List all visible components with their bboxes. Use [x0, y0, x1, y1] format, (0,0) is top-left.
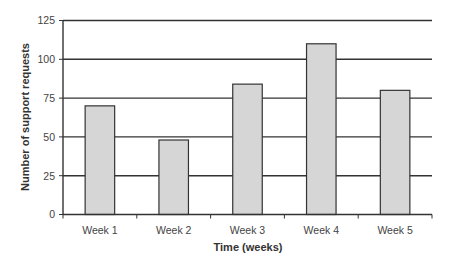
- x-tick-label: Week 2: [156, 224, 192, 236]
- bar-week-4: [307, 44, 337, 215]
- x-tick-label: Week 4: [304, 224, 340, 236]
- bar-week-3: [233, 84, 263, 214]
- x-tick-label: Week 1: [82, 224, 118, 236]
- bars: [85, 44, 410, 215]
- y-tick-label: 50: [43, 131, 55, 143]
- y-tick-labels: 0255075100125: [37, 14, 55, 220]
- y-tick-label: 0: [49, 208, 55, 220]
- x-tick-label: Week 3: [230, 224, 266, 236]
- bar-week-5: [380, 90, 410, 214]
- bar-week-1: [85, 106, 115, 215]
- x-axis-title: Time (weeks): [214, 241, 283, 253]
- y-tick-label: 100: [37, 53, 55, 65]
- y-tick-label: 25: [43, 170, 55, 182]
- y-axis-title: Number of support requests: [19, 43, 31, 191]
- y-tick-label: 125: [37, 14, 55, 26]
- bar-week-2: [159, 140, 189, 214]
- x-tick-labels: Week 1Week 2Week 3Week 4Week 5: [82, 224, 413, 236]
- x-tick-label: Week 5: [377, 224, 413, 236]
- chart-canvas: 0255075100125 Week 1Week 2Week 3Week 4We…: [0, 0, 452, 267]
- y-tick-label: 75: [43, 92, 55, 104]
